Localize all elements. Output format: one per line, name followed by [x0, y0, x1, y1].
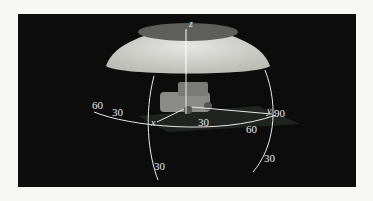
- diagram-graphic: [18, 14, 356, 187]
- z-axis-label: z: [189, 19, 193, 29]
- label-horiz-right-60: 60: [246, 124, 257, 135]
- label-horiz-left-30: 30: [112, 107, 123, 118]
- x-axis-label: x: [151, 118, 155, 128]
- label-horiz-right-90: 90: [274, 108, 285, 119]
- label-horiz-front-30: 30: [198, 117, 209, 128]
- radiation-dome: [106, 23, 270, 74]
- y-axis-label: y: [267, 106, 271, 116]
- label-vert-left-30: 30: [154, 161, 165, 172]
- figure-panel: z x y 60 30 30 60 90 30 30: [18, 14, 356, 187]
- label-horiz-left-60: 60: [92, 100, 103, 111]
- label-vert-right-30: 30: [264, 153, 275, 164]
